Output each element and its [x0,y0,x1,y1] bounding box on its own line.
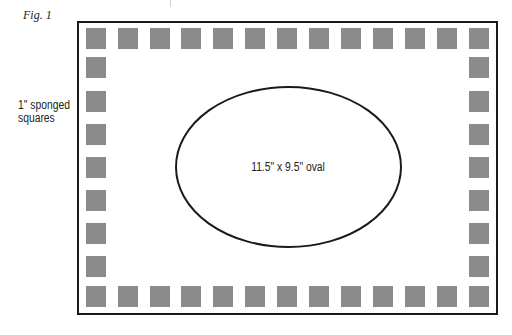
sponged-square-right [469,223,489,244]
sponged-square-left [86,157,106,178]
sponged-square-top [437,28,457,49]
sponged-square-bottom [405,286,425,307]
sponged-square-right [469,190,489,211]
sponged-square-top [118,28,138,49]
sponged-square-bottom [150,286,170,307]
figure-label: Fig. 1 [23,8,52,23]
sponged-square-bottom [469,286,489,307]
sponged-square-left [86,57,106,78]
squares-annotation: 1" sponged squares [18,99,70,125]
sponged-square-bottom [309,286,329,307]
sponged-square-left [86,124,106,145]
sponged-square-top [150,28,170,49]
sponged-square-top [469,28,489,49]
sponged-square-right [469,256,489,277]
oval-dimension-label: 11.5" x 9.5" oval [251,160,325,174]
sponged-square-right [469,124,489,145]
sponged-square-top [245,28,265,49]
sponged-square-top [373,28,393,49]
squares-annotation-line2: squares [18,112,70,125]
sponged-square-top [181,28,201,49]
sponged-square-left [86,190,106,211]
sponged-square-right [469,91,489,112]
sponged-square-bottom [86,286,106,307]
sponged-square-bottom [118,286,138,307]
sponged-square-left [86,223,106,244]
sponged-square-top [213,28,233,49]
sponged-square-bottom [277,286,297,307]
sponged-square-left [86,91,106,112]
sponged-square-top [86,28,106,49]
tick-mark [170,0,171,7]
sponged-square-right [469,57,489,78]
sponged-square-right [469,157,489,178]
sponged-square-bottom [373,286,393,307]
sponged-square-top [277,28,297,49]
sponged-square-bottom [437,286,457,307]
sponged-square-left [86,256,106,277]
sponged-square-bottom [245,286,265,307]
sponged-square-top [405,28,425,49]
sponged-square-bottom [341,286,361,307]
sponged-square-bottom [181,286,201,307]
sponged-square-top [341,28,361,49]
sponged-square-top [309,28,329,49]
sponged-square-bottom [213,286,233,307]
